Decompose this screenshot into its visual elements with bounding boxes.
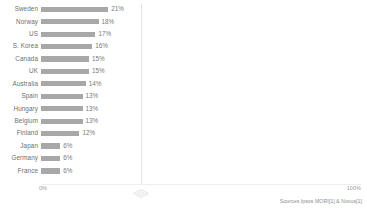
bar-category-label: France <box>0 168 38 174</box>
bar-row: Spain13% <box>0 90 367 102</box>
bar-value-label: 21% <box>111 6 124 12</box>
bar <box>41 131 79 136</box>
axis-slider-handle-icon[interactable] <box>133 189 150 198</box>
bar-row: S. Korea16% <box>0 40 367 52</box>
bar <box>41 69 89 74</box>
source-attribution: Sources Ipsos MORI[1] & Novus[1] <box>280 199 362 204</box>
bar-row: Canada15% <box>0 53 367 65</box>
bar-category-label: Spain <box>0 93 38 99</box>
bar-category-label: Belgium <box>0 118 38 124</box>
bar <box>41 119 83 124</box>
bar <box>41 19 99 24</box>
bar-value-label: 15% <box>92 56 105 62</box>
bar-value-label: 12% <box>82 130 95 136</box>
bar-row: Hungary13% <box>0 103 367 115</box>
bar-row: Norway18% <box>0 15 367 27</box>
bar <box>41 7 108 12</box>
bar <box>41 44 92 49</box>
bar <box>41 106 83 111</box>
bar <box>41 32 95 37</box>
bar-track: 15% <box>41 53 367 65</box>
bar-track: 17% <box>41 28 367 40</box>
bar <box>41 94 83 99</box>
bar-track: 6% <box>41 165 367 177</box>
bar-value-label: 14% <box>89 81 102 87</box>
bar-row: France6% <box>0 165 367 177</box>
bar-row: US17% <box>0 28 367 40</box>
bar-category-label: Canada <box>0 56 38 62</box>
bar-value-label: 13% <box>86 118 99 124</box>
bar-track: 6% <box>41 152 367 164</box>
bar-track: 13% <box>41 115 367 127</box>
bar-value-label: 6% <box>63 143 72 149</box>
bar-track: 13% <box>41 103 367 115</box>
bar-category-label: US <box>0 31 38 37</box>
bar-row: UK15% <box>0 65 367 77</box>
bar-track: 15% <box>41 65 367 77</box>
bar-track: 18% <box>41 15 367 27</box>
bar-value-label: 6% <box>63 155 72 161</box>
bar <box>41 143 60 148</box>
bar-track: 6% <box>41 140 367 152</box>
bar-category-label: Germany <box>0 155 38 161</box>
bar-track: 21% <box>41 3 367 15</box>
bar-row: Japan6% <box>0 140 367 152</box>
bar-value-label: 18% <box>102 19 115 25</box>
bar-track: 16% <box>41 40 367 52</box>
bar-category-label: Norway <box>0 19 38 25</box>
bar-category-label: Finland <box>0 130 38 136</box>
bar-value-label: 13% <box>86 93 99 99</box>
bar-row: Finland12% <box>0 127 367 139</box>
bar-track: 13% <box>41 90 367 102</box>
axis-baseline <box>41 184 361 185</box>
bar-category-label: UK <box>0 68 38 74</box>
bar <box>41 81 86 86</box>
bar-value-label: 16% <box>95 43 108 49</box>
bar-chart: Sweden21%Norway18%US17%S. Korea16%Canada… <box>0 0 367 211</box>
bar <box>41 56 89 61</box>
axis-tick-max: 100% <box>347 186 361 192</box>
bar-row: Australia14% <box>0 78 367 90</box>
bar-value-label: 13% <box>86 106 99 112</box>
bar-category-label: Australia <box>0 81 38 87</box>
bar-track: 14% <box>41 78 367 90</box>
bar-rows: Sweden21%Norway18%US17%S. Korea16%Canada… <box>0 3 367 177</box>
bar-category-label: Sweden <box>0 6 38 12</box>
bar <box>41 168 60 173</box>
bar-value-label: 17% <box>98 31 111 37</box>
bar-row: Belgium13% <box>0 115 367 127</box>
bar <box>41 156 60 161</box>
bar-category-label: Japan <box>0 143 38 149</box>
bar-category-label: Hungary <box>0 106 38 112</box>
bar-row: Sweden21% <box>0 3 367 15</box>
bar-row: Germany6% <box>0 152 367 164</box>
bar-track: 12% <box>41 127 367 139</box>
bar-value-label: 15% <box>92 68 105 74</box>
axis-tick-min: 0% <box>39 186 47 192</box>
bar-category-label: S. Korea <box>0 43 38 49</box>
bar-value-label: 6% <box>63 168 72 174</box>
